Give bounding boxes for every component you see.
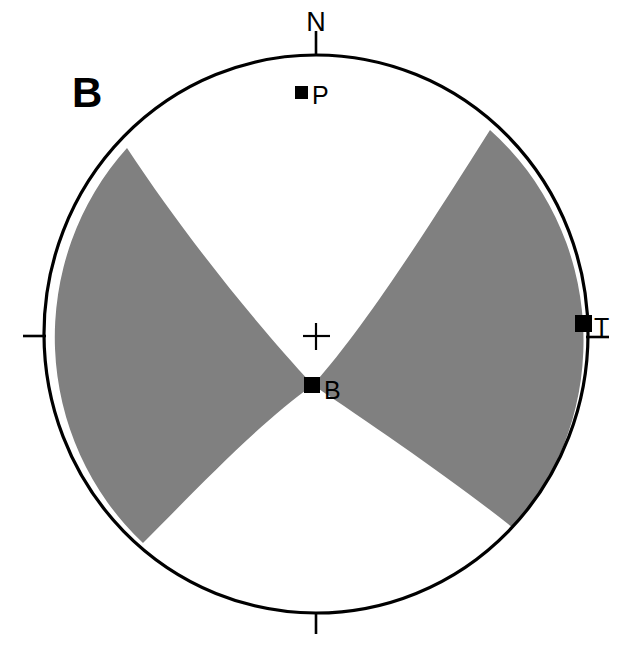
compass-north-label: N	[306, 7, 326, 37]
b-axis-label: B	[324, 376, 341, 404]
p-axis-marker	[295, 86, 308, 99]
p-axis-label: P	[312, 81, 329, 109]
t-axis-marker	[575, 315, 592, 332]
t-axis-label: T	[594, 313, 609, 341]
beachball-canvas: B N P T B	[0, 0, 625, 645]
b-axis-marker	[304, 377, 320, 393]
beachball-figure: B N P T B	[0, 0, 625, 645]
panel-label: B	[72, 69, 102, 116]
